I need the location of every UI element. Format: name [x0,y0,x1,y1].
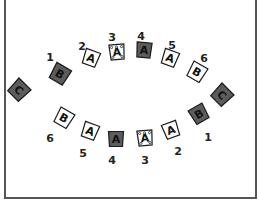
tile-top-c-left: C [7,78,31,102]
seat-number-labels_bottom-4: 4 [108,154,116,167]
tile-bottom-4: A [109,132,124,147]
seat-number-labels_top-3: 3 [108,31,116,44]
tile-top-3: A [109,44,125,60]
tile-letter: A [140,132,150,146]
tile-bottom-2: A [161,120,180,139]
tile-letter: A [112,46,122,60]
tile-letter: A [112,133,121,146]
seat-number-labels_bottom-1: 1 [204,131,212,144]
seat-number-labels_top-6: 6 [200,52,208,65]
seat-number-labels_top-5: 5 [168,39,176,52]
seat-number-labels_top-1: 1 [46,51,54,64]
tile-letter: A [139,44,149,58]
tile-bottom-5: A [80,121,99,140]
tile-bottom-1: B [188,103,210,125]
seat-number-labels_top-2: 2 [78,40,86,53]
tile-bottom-3: A [137,130,153,146]
seat-number-labels_bottom-5: 5 [79,147,87,160]
seat-number-labels_top-4: 4 [137,30,145,43]
tile-top-c-right: C [210,83,234,107]
seat-number-labels_bottom-2: 2 [174,145,182,158]
tile-bottom-6: B [53,107,75,129]
tile-top-1: B [48,62,71,85]
seat-number-labels_bottom-6: 6 [46,132,54,145]
seating-diagram: CBAAAABCBAAAAB123456654321 [0,0,259,202]
seat-number-labels_bottom-3: 3 [141,154,149,167]
tile-top-4: A [136,42,152,58]
